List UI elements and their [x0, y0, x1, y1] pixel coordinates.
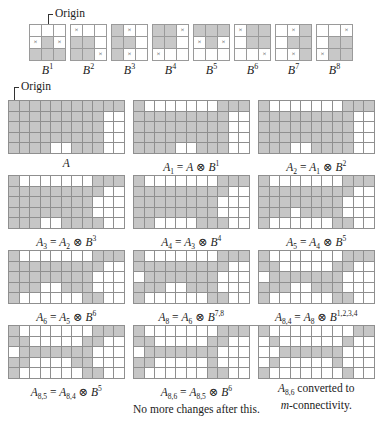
background-pixel [197, 101, 208, 112]
background-pixel [301, 251, 312, 262]
foreground-pixel [259, 197, 270, 208]
background-cell [194, 49, 206, 61]
background-pixel [187, 293, 198, 304]
foreground-pixel [312, 208, 323, 219]
background-pixel [114, 272, 125, 283]
origin-label-a: Origin [21, 80, 51, 92]
foreground-cell [42, 37, 54, 49]
background-pixel [354, 122, 365, 133]
foreground-pixel [93, 101, 104, 112]
structuring-element-b2: ××B2 [70, 24, 107, 61]
background-pixel [176, 143, 187, 154]
background-cell [95, 25, 107, 37]
pixel-grid [258, 100, 375, 154]
pixel-grid [133, 175, 250, 229]
foreground-pixel [166, 208, 177, 219]
background-pixel [155, 326, 166, 337]
foreground-cell [259, 37, 271, 49]
foreground-pixel [259, 208, 270, 219]
background-pixel [364, 143, 375, 154]
foreground-pixel [62, 283, 73, 294]
foreground-pixel [166, 122, 177, 133]
foreground-pixel [333, 143, 344, 154]
foreground-cell [71, 37, 83, 49]
background-pixel [229, 208, 240, 219]
background-pixel [354, 187, 365, 198]
foreground-pixel [104, 326, 115, 337]
background-cell [235, 37, 247, 49]
foreground-pixel [51, 197, 62, 208]
background-pixel [312, 293, 323, 304]
foreground-pixel [114, 326, 125, 337]
background-pixel [333, 176, 344, 187]
background-pixel [134, 272, 145, 283]
foreground-pixel [114, 101, 125, 112]
foreground-pixel [259, 101, 270, 112]
background-pixel [312, 176, 323, 187]
foreground-pixel [270, 358, 281, 369]
background-pixel [166, 293, 177, 304]
background-cell [177, 37, 189, 49]
background-pixel [41, 218, 52, 229]
background-pixel [166, 176, 177, 187]
foreground-pixel [187, 262, 198, 273]
background-pixel [51, 218, 62, 229]
foreground-pixel [72, 347, 83, 358]
foreground-pixel [333, 187, 344, 198]
foreground-pixel [270, 283, 281, 294]
background-pixel [354, 347, 365, 358]
foreground-cell [206, 25, 218, 37]
background-pixel [291, 251, 302, 262]
panel-a1: A1 = A ⊗ B1 [133, 100, 250, 178]
background-pixel [114, 197, 125, 208]
background-pixel [291, 337, 302, 348]
background-pixel [155, 176, 166, 187]
panel-a84: A8,4 = A8 ⊗ B1,2,3,4 [258, 250, 375, 328]
background-pixel [51, 251, 62, 262]
se-grid: ×× [70, 24, 107, 61]
foreground-pixel [280, 122, 291, 133]
background-pixel [270, 218, 281, 229]
foreground-pixel [134, 283, 145, 294]
se-grid: ×× [275, 24, 312, 61]
background-pixel [239, 133, 250, 144]
foreground-pixel [30, 112, 41, 123]
foreground-pixel [176, 272, 187, 283]
foreground-pixel [20, 347, 31, 358]
background-pixel [104, 218, 115, 229]
background-pixel [301, 358, 312, 369]
foreground-pixel [187, 272, 198, 283]
foreground-pixel [218, 337, 229, 348]
background-pixel [51, 293, 62, 304]
foreground-pixel [134, 218, 145, 229]
background-pixel [51, 143, 62, 154]
background-pixel [218, 347, 229, 358]
background-pixel [291, 293, 302, 304]
background-pixel [354, 143, 365, 154]
foreground-pixel [364, 176, 375, 187]
foreground-pixel [364, 326, 375, 337]
background-pixel [259, 358, 270, 369]
foreground-pixel [9, 187, 20, 198]
foreground-pixel [72, 187, 83, 198]
foreground-pixel [322, 122, 333, 133]
panel-am: A8,6 converted tom-connectivity. [258, 325, 375, 412]
foreground-pixel [343, 218, 354, 229]
background-pixel [145, 251, 156, 262]
background-pixel [312, 337, 323, 348]
background-cell [276, 37, 288, 49]
foreground-pixel [83, 122, 94, 133]
background-pixel [312, 368, 323, 379]
background-pixel [72, 337, 83, 348]
background-pixel [145, 101, 156, 112]
background-pixel [41, 326, 52, 337]
foreground-pixel [354, 326, 365, 337]
background-pixel [322, 368, 333, 379]
background-pixel [166, 101, 177, 112]
background-pixel [176, 293, 187, 304]
background-pixel [104, 337, 115, 348]
dont-care-cell: × [288, 25, 300, 37]
foreground-pixel [176, 187, 187, 198]
background-pixel [93, 358, 104, 369]
foreground-pixel [62, 122, 73, 133]
